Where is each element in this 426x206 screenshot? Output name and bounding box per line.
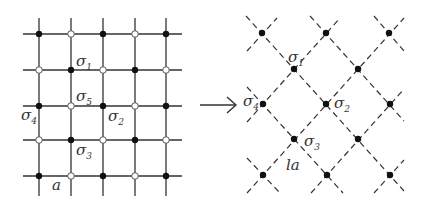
open-site-dot bbox=[132, 103, 139, 110]
arrow-right-icon bbox=[200, 97, 236, 113]
lattice-site-dot bbox=[291, 136, 297, 142]
lattice-site-dot bbox=[387, 101, 393, 107]
rotated-lattice-sites bbox=[259, 30, 393, 178]
filled-site-dot bbox=[68, 67, 74, 73]
label-sigma3: σ3 bbox=[304, 132, 320, 152]
filled-site-dot bbox=[132, 137, 138, 143]
open-site-dot bbox=[100, 137, 107, 144]
filled-site-dot bbox=[36, 173, 42, 179]
filled-site-dot bbox=[36, 103, 42, 109]
open-site-dot bbox=[100, 67, 107, 74]
lattice-site-dot bbox=[323, 30, 329, 36]
lattice-site-dot bbox=[386, 30, 392, 36]
filled-site-dot bbox=[100, 103, 106, 109]
open-site-dot bbox=[68, 31, 75, 38]
label-sigma4: σ4 bbox=[243, 92, 259, 112]
filled-site-dot bbox=[163, 173, 169, 179]
filled-site-dot bbox=[36, 31, 42, 37]
label-a: a bbox=[52, 176, 61, 194]
lattice-site-dot bbox=[355, 136, 361, 142]
label-sigma5: σ5 bbox=[76, 87, 92, 107]
open-site-dot bbox=[36, 67, 43, 74]
label-sigma2: σ2 bbox=[108, 107, 124, 127]
lattice-site-dot bbox=[324, 172, 330, 178]
open-site-dot bbox=[163, 67, 170, 74]
lattice-site-dot bbox=[260, 172, 266, 178]
label-sigma4: σ4 bbox=[21, 106, 37, 126]
label-sigma2: σ2 bbox=[334, 94, 350, 114]
open-site-dot bbox=[163, 137, 170, 144]
filled-site-dot bbox=[100, 31, 106, 37]
open-site-dot bbox=[132, 173, 139, 180]
label-sigma1: σ1 bbox=[76, 52, 92, 72]
filled-site-dot bbox=[100, 173, 106, 179]
lattice-site-dot bbox=[323, 101, 329, 107]
lattice-mapping-diagram: σ1σ5σ4σ2σ3a σ1σ4σ2σ3la bbox=[0, 0, 426, 206]
lattice-site-dot bbox=[387, 172, 393, 178]
filled-site-dot bbox=[163, 31, 169, 37]
open-site-dot bbox=[68, 103, 75, 110]
label-sigma1: σ1 bbox=[288, 48, 304, 68]
lattice-site-dot bbox=[355, 66, 361, 72]
open-site-dot bbox=[132, 31, 139, 38]
filled-site-dot bbox=[68, 137, 74, 143]
label-sigma3: σ3 bbox=[76, 141, 92, 161]
lattice-site-dot bbox=[259, 30, 265, 36]
open-site-dot bbox=[68, 173, 75, 180]
filled-site-dot bbox=[132, 67, 138, 73]
filled-site-dot bbox=[163, 103, 169, 109]
open-site-dot bbox=[36, 137, 43, 144]
lattice-site-dot bbox=[260, 101, 266, 107]
lattice-site-dot bbox=[291, 66, 297, 72]
label-la: la bbox=[286, 156, 300, 174]
